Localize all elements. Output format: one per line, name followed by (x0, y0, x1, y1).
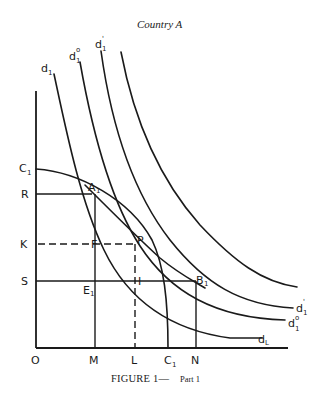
svg-text:Part 1: Part 1 (180, 374, 200, 384)
point-label-I: I (138, 275, 141, 288)
point-label-B1: B 1 (196, 274, 208, 288)
svg-text:d: d (95, 38, 102, 51)
label-d1prime-top: d ' 1 (95, 35, 106, 53)
svg-text:': ' (102, 35, 104, 43)
figure-title: Country A (137, 18, 183, 30)
y-label-R: R (21, 188, 29, 201)
point-label-F: F (91, 238, 97, 251)
svg-text:d: d (258, 333, 265, 346)
x-label-M: M (89, 354, 99, 367)
svg-text:1: 1 (96, 187, 100, 195)
svg-text:d: d (288, 317, 295, 330)
svg-text:A: A (88, 181, 96, 194)
svg-text:d: d (69, 50, 76, 63)
svg-text:1: 1 (76, 57, 80, 65)
label-d1-top: d 1 (41, 62, 52, 77)
svg-text:B: B (196, 274, 204, 287)
svg-text:E: E (83, 284, 90, 297)
x-label-L: L (131, 354, 138, 367)
y-label-K: K (20, 238, 28, 251)
svg-text:L: L (265, 339, 269, 347)
label-d1o-top: d o 1 (69, 46, 80, 65)
svg-text:1: 1 (204, 280, 208, 288)
y-label-C1: C 1 (19, 162, 31, 177)
point-label-A1: A 1 (88, 181, 100, 195)
svg-text:o: o (295, 314, 299, 322)
svg-text:1: 1 (48, 69, 52, 77)
svg-text:1: 1 (295, 325, 299, 333)
label-dL-end: d L (258, 333, 269, 347)
indifference-curve-dL (54, 74, 262, 338)
svg-text:C: C (164, 354, 172, 367)
svg-text:1: 1 (90, 290, 94, 298)
x-label-C1: C 1 (164, 354, 176, 369)
svg-text:FIGURE 1—: FIGURE 1— (111, 373, 169, 384)
figure-caption: FIGURE 1— Part 1 (111, 373, 200, 384)
origin-label-O: O (31, 354, 40, 367)
svg-text:1: 1 (303, 309, 307, 317)
diagram-figure: Country A d 1 d o 1 d ' 1 d ' 1 d (0, 0, 323, 400)
point-label-P: P (137, 234, 144, 247)
svg-text:d: d (41, 62, 48, 75)
svg-text:1: 1 (102, 45, 106, 53)
label-d1o-end: d o 1 (288, 314, 299, 333)
svg-text:1: 1 (172, 361, 176, 369)
indifference-curve-outer (121, 52, 297, 287)
x-label-N: N (191, 354, 199, 367)
y-label-S: S (21, 275, 28, 288)
svg-text:': ' (303, 298, 305, 306)
svg-text:C: C (19, 162, 27, 175)
svg-text:1: 1 (27, 169, 31, 177)
svg-text:o: o (76, 46, 80, 54)
point-label-E1: E 1 (83, 284, 94, 298)
